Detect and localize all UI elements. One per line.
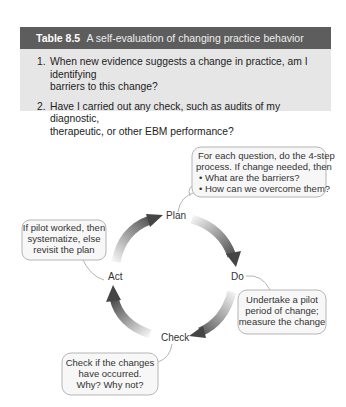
svg-text:period of change;: period of change; (245, 305, 318, 316)
svg-text:process. If change needed, the: process. If change needed, then (196, 161, 332, 172)
svg-text:• How can we overcome them?: • How can we overcome them? (199, 183, 330, 194)
svg-text:Check if the changes: Check if the changes (66, 357, 155, 368)
svg-text:Undertake a pilot: Undertake a pilot (246, 294, 318, 305)
arrow-do-to-check-icon (189, 292, 232, 338)
arrow-check-to-act-icon (106, 285, 150, 334)
node-do: Do (231, 271, 244, 282)
svg-text:have occurred.: have occurred. (79, 368, 142, 379)
svg-text:revisit the plan: revisit the plan (33, 244, 94, 255)
node-plan: Plan (166, 210, 186, 221)
bubble-plan: For each question, do the 4-step process… (178, 147, 335, 212)
bubble-do: Undertake a pilot period of change; meas… (238, 276, 326, 334)
arrow-act-to-plan-icon (116, 214, 163, 262)
bubble-act: If pilot worked, then systematize, else … (22, 220, 106, 280)
node-act: Act (108, 271, 123, 282)
svg-text:• What are the barriers?: • What are the barriers? (199, 172, 299, 183)
arrow-plan-to-do-icon (192, 219, 241, 267)
bubble-check: Check if the changes have occurred. Why?… (62, 344, 172, 395)
svg-text:measure the change: measure the change (239, 316, 326, 327)
node-check: Check (161, 332, 190, 343)
pdca-cycle-diagram: Plan Do Check Act For each question, do … (0, 0, 346, 407)
svg-text:Why? Why not?: Why? Why not? (76, 379, 143, 390)
svg-text:If pilot worked, then: If pilot worked, then (23, 222, 105, 233)
svg-text:systematize, else: systematize, else (28, 233, 101, 244)
svg-text:For each question, do the 4-st: For each question, do the 4-step (198, 150, 335, 161)
